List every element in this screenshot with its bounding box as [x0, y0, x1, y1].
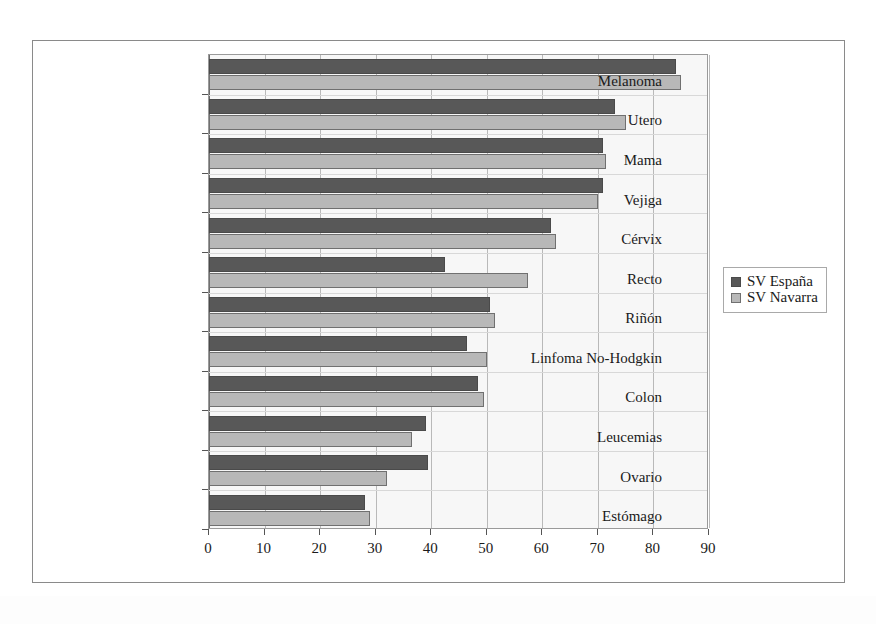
category-label: Leucemias	[597, 430, 662, 445]
row-separator	[209, 293, 707, 294]
bar-espana	[209, 416, 426, 431]
category-tick	[202, 133, 208, 134]
category-label: Melanoma	[598, 74, 662, 89]
x-tick-label-90: 90	[701, 541, 716, 556]
category-tick	[202, 212, 208, 213]
bar-navarra	[209, 352, 487, 367]
row-separator	[209, 253, 707, 254]
category-label: Ovario	[620, 470, 662, 485]
category-tick	[202, 450, 208, 451]
x-tick-50	[486, 529, 487, 535]
bar-navarra	[209, 194, 598, 209]
bar-navarra	[209, 313, 495, 328]
bar-espana	[209, 138, 603, 153]
row-separator	[209, 372, 707, 373]
x-tick-40	[430, 529, 431, 535]
category-tick	[202, 292, 208, 293]
x-tick-label-50: 50	[478, 541, 493, 556]
x-tick-label-70: 70	[589, 541, 604, 556]
bar-espana	[209, 178, 603, 193]
bar-navarra	[209, 392, 484, 407]
x-tick-80	[652, 529, 653, 535]
row-separator	[209, 451, 707, 452]
category-tick	[202, 489, 208, 490]
row-separator	[209, 411, 707, 412]
legend-swatch-icon	[731, 293, 741, 303]
x-tick-0	[208, 529, 209, 535]
bar-espana	[209, 99, 615, 114]
category-label: Vejiga	[624, 193, 662, 208]
category-tick	[202, 371, 208, 372]
bar-navarra	[209, 273, 528, 288]
row-separator	[209, 95, 707, 96]
x-tick-label-0: 0	[204, 541, 212, 556]
legend-label: SV España	[747, 274, 813, 289]
category-label: Mama	[624, 153, 662, 168]
chart-legend: SV EspañaSV Navarra	[723, 267, 827, 313]
bar-navarra	[209, 511, 370, 526]
scan-margin	[0, 596, 876, 624]
x-tick-label-30: 30	[367, 541, 382, 556]
x-tick-60	[541, 529, 542, 535]
x-tick-label-10: 10	[256, 541, 271, 556]
chart-frame: MelanomaUteroMamaVejigaCérvixRectoRiñónL…	[32, 40, 845, 583]
x-tick-label-40: 40	[423, 541, 438, 556]
x-tick-30	[375, 529, 376, 535]
category-label: Utero	[628, 113, 662, 128]
bar-navarra	[209, 471, 387, 486]
bar-espana	[209, 495, 365, 510]
x-tick-label-20: 20	[312, 541, 327, 556]
category-tick	[202, 252, 208, 253]
bar-espana	[209, 218, 551, 233]
category-label: Colon	[625, 390, 662, 405]
row-separator	[209, 213, 707, 214]
category-label: Cérvix	[621, 232, 662, 247]
bar-navarra	[209, 234, 556, 249]
category-tick	[202, 331, 208, 332]
category-label: Linfoma No-Hodgkin	[531, 351, 662, 366]
x-tick-90	[708, 529, 709, 535]
category-tick	[202, 94, 208, 95]
bar-navarra	[209, 432, 412, 447]
category-label: Riñón	[625, 311, 662, 326]
x-tick-10	[264, 529, 265, 535]
x-tick-20	[319, 529, 320, 535]
row-separator	[209, 332, 707, 333]
x-tick-label-60: 60	[534, 541, 549, 556]
x-tick-label-80: 80	[645, 541, 660, 556]
bar-espana	[209, 376, 478, 391]
row-separator	[209, 174, 707, 175]
legend-swatch-icon	[731, 277, 741, 287]
legend-item: SV España	[731, 274, 818, 289]
category-label: Recto	[627, 272, 662, 287]
category-label: Estómago	[602, 509, 662, 524]
bar-espana	[209, 455, 428, 470]
bar-navarra	[209, 115, 626, 130]
row-separator	[209, 134, 707, 135]
category-tick	[202, 173, 208, 174]
legend-label: SV Navarra	[747, 290, 818, 305]
gridline-90	[709, 55, 710, 528]
bar-espana	[209, 336, 467, 351]
x-tick-70	[597, 529, 598, 535]
bar-espana	[209, 297, 490, 312]
category-tick	[202, 410, 208, 411]
bar-espana	[209, 257, 445, 272]
bar-navarra	[209, 154, 606, 169]
legend-item: SV Navarra	[731, 290, 818, 305]
row-separator	[209, 490, 707, 491]
